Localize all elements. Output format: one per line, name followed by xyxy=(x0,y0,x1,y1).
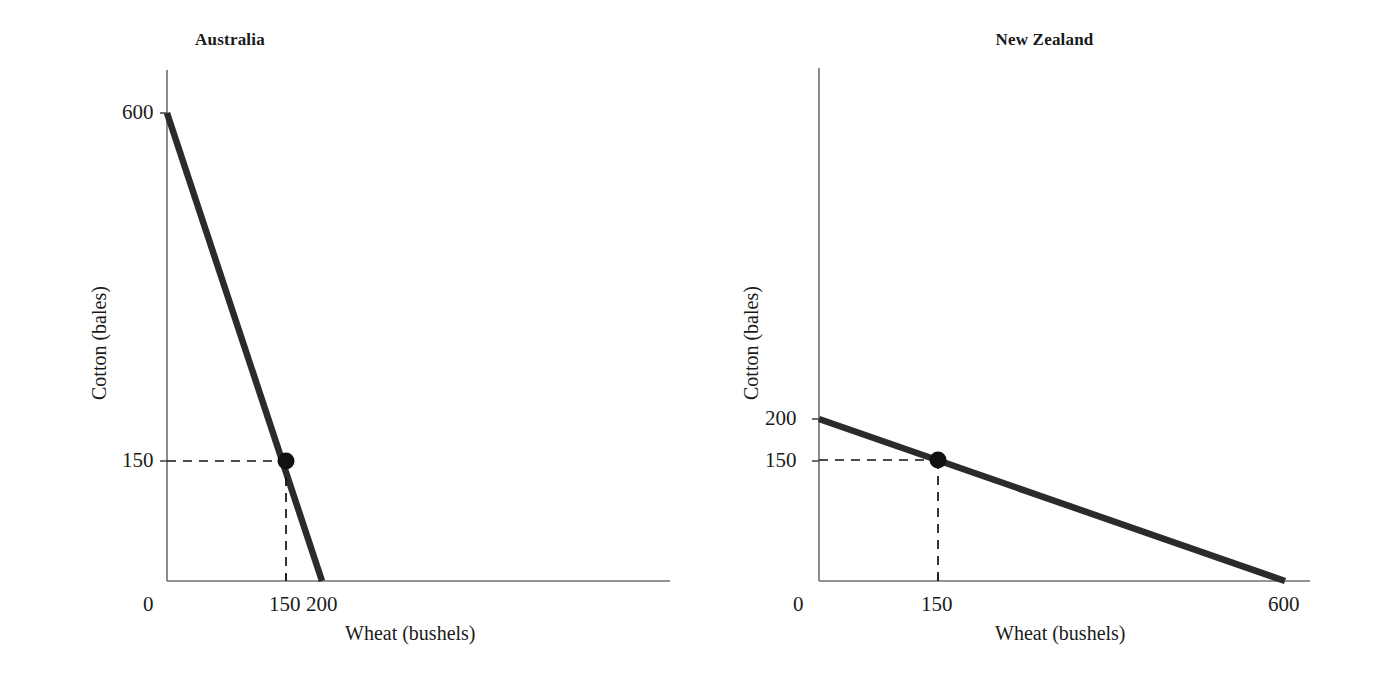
production-point-newzealand[interactable] xyxy=(930,452,947,469)
y-axis-title-australia: Cotton (bales) xyxy=(88,286,111,400)
x-tick-label-0-australia: 0 xyxy=(143,592,154,617)
production-point-australia[interactable] xyxy=(278,453,295,470)
x-tick-label-600-newzealand: 600 xyxy=(1268,592,1300,617)
x-axis-title-newzealand: Wheat (bushels) xyxy=(995,622,1126,645)
x-tick-label-150-australia: 150 xyxy=(269,592,301,617)
chart-panel-australia: Australia 600 150 0 150 200 Cotton (bale… xyxy=(0,0,700,683)
y-tick-label-150-australia: 150 xyxy=(122,448,154,473)
chart-panel-newzealand: New Zealand 200 150 0 150 600 Cotton (ba… xyxy=(700,0,1389,683)
x-axis-title-australia: Wheat (bushels) xyxy=(345,622,476,645)
x-tick-label-150-newzealand: 150 xyxy=(921,592,953,617)
plot-area-newzealand xyxy=(700,0,1389,683)
ppf-line-newzealand xyxy=(819,419,1285,581)
y-tick-label-600-australia: 600 xyxy=(122,100,154,125)
x-tick-label-0-newzealand: 0 xyxy=(793,592,804,617)
y-tick-label-200-newzealand: 200 xyxy=(765,406,797,431)
ppf-line-australia xyxy=(167,113,322,581)
x-tick-label-200-australia: 200 xyxy=(306,592,338,617)
y-axis-title-newzealand: Cotton (bales) xyxy=(740,286,763,400)
y-tick-label-150-newzealand: 150 xyxy=(765,448,797,473)
